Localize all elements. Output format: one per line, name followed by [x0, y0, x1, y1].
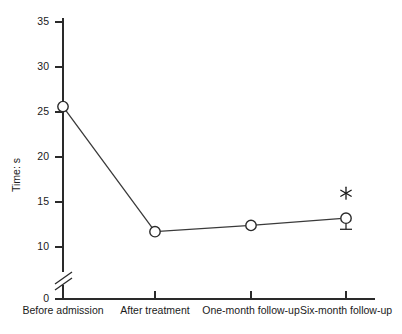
y-axis-title: Time: s: [10, 158, 22, 192]
data-point-one-month-follow-up: [246, 220, 256, 230]
y-tick-label-35: 35: [37, 15, 49, 27]
data-point-before-admission: [58, 101, 68, 111]
y-tick-label-0: 0: [43, 292, 49, 304]
chart-canvas: 35 30 25 20 15 10 0 Time: s Before admis…: [0, 0, 402, 334]
series-line-time: [63, 107, 346, 232]
y-tick-label-25: 25: [37, 105, 49, 117]
x-tick-label-before-admission: Before admission: [22, 304, 103, 316]
y-tick-label-20: 20: [37, 150, 49, 162]
axis-break-mark-lower: [55, 272, 72, 284]
y-tick-label-10: 10: [37, 240, 49, 252]
x-tick-label-six-month-follow-up: Six-month follow-up: [300, 304, 392, 316]
data-point-after-treatment: [150, 227, 160, 237]
significance-asterisk-icon: [341, 187, 351, 199]
y-tick-label-15: 15: [37, 195, 49, 207]
line-chart: 35 30 25 20 15 10 0 Time: s Before admis…: [0, 0, 402, 334]
y-tick-label-30: 30: [37, 60, 49, 72]
x-tick-label-after-treatment: After treatment: [120, 304, 190, 316]
data-point-six-month-follow-up: [341, 213, 351, 223]
x-tick-label-one-month-follow-up: One-month follow-up: [202, 304, 300, 316]
